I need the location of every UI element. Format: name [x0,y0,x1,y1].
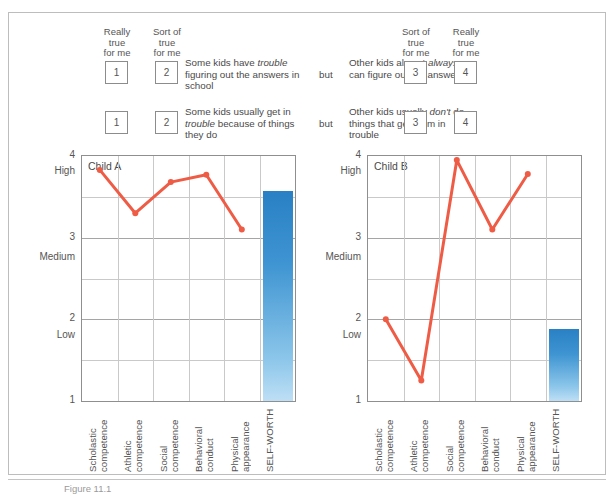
caption-rule [8,479,606,480]
y-axis-tick-label: 4 [309,149,361,160]
figure-frame: Really true for me Sort of true for me S… [8,12,606,475]
y-axis-band-label: High [23,165,75,176]
questionnaire-left-header-2: Sort of true for me [143,27,191,59]
x-axis-category-label: Scholastic competence [374,408,396,472]
questionnaire-item-2-conjunction: but [319,118,333,129]
data-point-marker [97,167,103,173]
questionnaire-item-1-option-4[interactable]: 4 [454,61,477,84]
item-1-left-post: figuring out the answers in school [185,69,299,92]
x-axis-category-label: Social competence [159,408,181,472]
data-point-marker [203,172,209,178]
item-2-right-em: don't [430,106,451,117]
item-2-left-pre: Some kids usually get in [185,106,291,117]
data-point-marker [239,227,245,233]
questionnaire-item-2-option-3[interactable]: 3 [404,111,427,134]
y-axis-tick-label: 2 [309,312,361,323]
x-axis-category-label: SELF-WORTH [265,408,287,472]
data-point-marker [168,179,174,185]
plot-area-child-b: Child B [367,155,582,402]
x-axis-category-label: Physical appearance [230,408,252,472]
questionnaire: Really true for me Sort of true for me S… [9,13,607,138]
questionnaire-item-1-conjunction: but [319,69,333,80]
item-1-left-pre: Some kids have [185,57,257,68]
data-point-marker [454,157,460,163]
chart-child-b: Child B 1234HighMediumLowScholastic comp… [309,143,597,473]
figure-root: Really true for me Sort of true for me S… [0,0,616,497]
x-axis-category-label: Scholastic competence [88,408,110,472]
y-axis-tick-label: 3 [309,231,361,242]
figure-caption: Figure 11.1 [64,483,111,494]
item-1-left-em: trouble [257,57,287,68]
questionnaire-item-2-left-statement: Some kids usually get in trouble because… [185,106,315,141]
x-axis-category-label: Physical appearance [516,408,538,472]
y-axis-tick-label: 3 [23,231,75,242]
questionnaire-item-1-option-1[interactable]: 1 [105,61,128,84]
y-axis-band-label: High [309,165,361,176]
y-axis-tick-label: 2 [23,312,75,323]
questionnaire-item-1-option-2[interactable]: 2 [155,61,178,84]
series-polyline [386,160,528,381]
questionnaire-right-header-1: Sort of true for me [392,27,440,59]
data-point-marker [418,378,424,384]
y-axis-band-label: Low [23,329,75,340]
y-axis-tick-label: 1 [23,394,75,405]
y-axis-band-label: Low [309,329,361,340]
x-axis-category-label: Behavioral conduct [194,408,216,472]
questionnaire-item-1-option-3[interactable]: 3 [404,61,427,84]
y-axis-tick-label: 1 [309,394,361,405]
x-axis-category-label: Athletic competence [123,408,145,472]
data-series-line [368,156,581,401]
questionnaire-item-2-option-1[interactable]: 1 [105,111,128,134]
series-polyline [100,170,242,230]
y-axis-band-label: Medium [309,251,361,262]
data-point-marker [489,227,495,233]
x-axis-category-label: Social competence [445,408,467,472]
data-point-marker [525,171,531,177]
questionnaire-item-2-option-2[interactable]: 2 [155,111,178,134]
x-axis-category-label: SELF-WORTH [551,408,573,472]
y-axis-band-label: Medium [23,251,75,262]
questionnaire-right-header-2: Really true for me [442,27,490,59]
x-axis-category-label: Athletic competence [409,408,431,472]
y-axis-tick-label: 4 [23,149,75,160]
plot-area-child-a: Child A [81,155,296,402]
data-point-marker [132,210,138,216]
data-series-line [82,156,295,401]
questionnaire-left-header-1: Really true for me [93,27,141,59]
chart-child-a: Child A 1234HighMediumLowScholastic comp… [23,143,311,473]
item-2-left-em: trouble [185,118,215,129]
questionnaire-item-1-left-statement: Some kids have trouble figuring out the … [185,57,315,92]
data-point-marker [383,316,389,322]
x-axis-category-label: Behavioral conduct [480,408,502,472]
questionnaire-item-2-option-4[interactable]: 4 [454,111,477,134]
